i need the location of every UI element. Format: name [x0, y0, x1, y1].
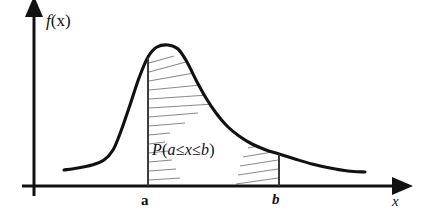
hatch-line: [149, 160, 172, 162]
annotation-lower-bound: a: [168, 141, 176, 158]
shaded-region-hatching: [149, 56, 278, 184]
hatch-line: [149, 133, 170, 135]
hatch-line: [236, 178, 278, 184]
hatch-line: [149, 169, 176, 171]
hatch-line: [240, 160, 278, 166]
probability-annotation: P(a≤x≤b): [152, 142, 215, 158]
hatch-line: [149, 113, 198, 117]
hatch-line: [149, 56, 174, 63]
y-axis-label: f(x): [46, 12, 71, 29]
annotation-relation-left: ≤: [176, 141, 185, 158]
hatch-line: [149, 104, 214, 108]
annotation-relation-right: ≤: [192, 141, 201, 158]
tick-label-b: b: [272, 192, 280, 207]
figure-canvas: [0, 0, 421, 218]
hatch-line: [149, 73, 194, 81]
x-axis-label: x: [392, 194, 399, 209]
probability-density-figure: f(x) x a b P(a≤x≤b): [0, 0, 421, 218]
annotation-p-symbol: P: [152, 141, 162, 158]
hatch-line: [149, 85, 201, 90]
hatch-line: [149, 178, 180, 180]
annotation-variable: x: [185, 141, 192, 158]
hatch-line: [149, 95, 208, 99]
annotation-upper-bound: b: [201, 141, 209, 158]
hatch-line: [149, 123, 185, 126]
tick-label-a: a: [141, 193, 149, 208]
hatch-line: [149, 62, 186, 72]
annotation-close-paren: ): [209, 141, 215, 158]
hatch-line: [238, 169, 278, 175]
y-axis-label-argument: (x): [51, 11, 71, 30]
